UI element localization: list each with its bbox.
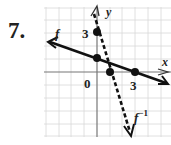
point-f-3-0 — [131, 68, 139, 76]
label-f: f — [55, 26, 61, 41]
label-x-3: 3 — [130, 78, 137, 93]
point-f-0-1 — [93, 54, 101, 62]
label-x: x — [161, 55, 168, 69]
label-y-3: 3 — [82, 26, 89, 41]
label-origin: 0 — [84, 76, 91, 91]
label-f-inverse: f−1 — [134, 108, 148, 125]
point-finv-1-0 — [106, 68, 114, 76]
point-finv-0-3 — [93, 28, 101, 36]
label-y: y — [104, 5, 112, 19]
graph: f y x 3 0 3 f−1 — [0, 0, 171, 145]
f-line — [50, 42, 166, 83]
